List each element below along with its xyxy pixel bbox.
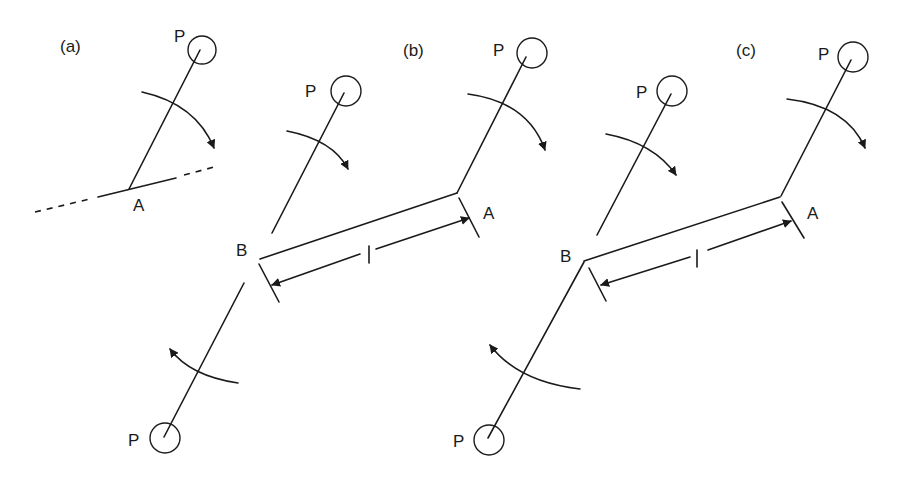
pendulum-bottom-p-label: P [128, 431, 139, 450]
support-segment [98, 178, 176, 197]
panel-a: (a) P A [35, 27, 218, 215]
pendulum-bottom-p-label: P [453, 432, 464, 451]
pendulum-mid-mass-circle [331, 76, 361, 106]
panel-c-label: (c) [736, 41, 756, 60]
figure-canvas: (a) P A (b) P P A B P [0, 0, 898, 483]
pivot-b-label: B [236, 241, 247, 260]
pivot-a-label: A [807, 204, 819, 223]
connecting-bar [584, 197, 780, 261]
rotation-arrow-top-icon [468, 94, 545, 150]
rotation-arrow-bottom-icon [170, 349, 238, 383]
pivot-a-label: A [483, 204, 495, 223]
pendulum-top-p-label: P [493, 41, 504, 60]
pendulum-bottom-mass-circle [150, 423, 180, 453]
panel-b-label: (b) [403, 41, 424, 60]
pivot-a-label: A [133, 196, 145, 215]
rotation-arrow-icon [142, 92, 214, 148]
pendulum-bottom-rod [488, 262, 584, 438]
pendulum-mid-rod [272, 93, 344, 233]
pivot-b-label: B [560, 247, 571, 266]
dimension-arrow-right-icon [376, 218, 469, 249]
panel-b: (b) P P A B P [128, 38, 547, 453]
pendulum-mass-circle [188, 36, 216, 64]
pendulum-top-rod [781, 60, 851, 196]
rotation-arrow-mid-icon [606, 134, 676, 175]
pendulum-rod [129, 50, 200, 189]
dimension-tick-a [782, 202, 804, 238]
dimension-arrow-left-icon [272, 254, 360, 285]
pendulum-top-mass-circle [838, 42, 868, 72]
pendulum-top-mass-circle [517, 38, 547, 68]
panel-a-label: (a) [60, 37, 81, 56]
pendulum-top-p-label: P [818, 45, 829, 64]
pendulum-top-rod [457, 57, 526, 193]
pendulum-mid-rod [597, 94, 671, 235]
support-extension-right [184, 166, 218, 175]
pendulum-bottom-mass-circle [474, 425, 504, 455]
rotation-arrow-mid-icon [287, 131, 348, 169]
pendulum-mid-p-label: P [636, 83, 647, 102]
rotation-arrow-top-icon [787, 99, 865, 148]
connecting-bar [260, 193, 457, 259]
pendulum-mid-p-label: P [305, 82, 316, 101]
support-extension-left [35, 199, 90, 212]
dimension-arrow-right-icon [708, 221, 791, 250]
pendulum-p-label: P [174, 27, 185, 46]
pendulum-bottom-rod [164, 283, 244, 437]
panel-c: (c) P P A B P [453, 41, 868, 455]
pendulum-mid-mass-circle [657, 76, 687, 106]
dimension-arrow-left-icon [601, 257, 690, 285]
